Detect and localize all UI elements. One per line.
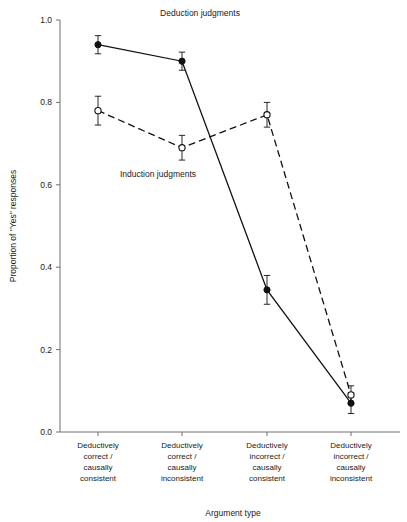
data-point-marker — [264, 287, 270, 293]
y-axis-tick-label: 0.6 — [40, 180, 52, 190]
x-axis-category-line: consistent — [80, 474, 117, 483]
x-axis-category-line: Deductively — [330, 441, 371, 450]
series-line-1 — [98, 45, 351, 403]
x-axis-category-line: causally — [84, 463, 113, 472]
x-axis-category-label: Deductivelycorrect /causallyconsistent — [77, 441, 118, 483]
x-axis-category-label: Deductivelycorrect /causallyinconsistent — [161, 441, 204, 483]
x-axis-category-line: causally — [168, 463, 197, 472]
series-annotations: Deduction judgmentsInduction judgments — [120, 8, 240, 179]
x-axis-category-label: Deductivelyincorrect /causallyinconsiste… — [330, 441, 373, 483]
data-point-marker — [95, 108, 101, 114]
x-axis-category-line: incorrect / — [333, 452, 369, 461]
series-annotation: Deduction judgments — [160, 8, 240, 18]
x-axis-category-line: inconsistent — [161, 474, 204, 483]
y-axis-tick-label: 0.8 — [40, 97, 52, 107]
x-axis-category-line: correct / — [84, 452, 114, 461]
x-axis-category-line: inconsistent — [330, 474, 373, 483]
data-point-marker — [264, 112, 270, 118]
x-axis-category-line: correct / — [168, 452, 198, 461]
x-axis: Deductivelycorrect /causallyconsistentDe… — [60, 432, 400, 483]
data-point-marker — [95, 42, 101, 48]
y-axis-tick-label: 0.0 — [40, 427, 52, 437]
y-axis-tick-label: 1.0 — [40, 15, 52, 25]
data-series-group — [95, 36, 354, 414]
y-axis-tick-label: 0.2 — [40, 345, 52, 355]
x-axis-category-line: Deductively — [161, 441, 202, 450]
chart-figure: 0.00.20.40.60.81.0 Deductivelycorrect /c… — [0, 0, 407, 522]
x-axis-category-label: Deductivelyincorrect /causallyconsistent — [246, 441, 287, 483]
x-axis-category-line: incorrect / — [249, 452, 285, 461]
series-annotation: Induction judgments — [120, 169, 196, 179]
x-axis-category-line: causally — [253, 463, 282, 472]
x-axis-category-line: Deductively — [77, 441, 118, 450]
y-axis: 0.00.20.40.60.81.0 — [40, 15, 60, 437]
x-axis-title: Argument type — [205, 508, 261, 518]
data-point-marker — [179, 58, 185, 64]
data-point-marker — [179, 145, 185, 151]
data-point-marker — [348, 392, 354, 398]
x-axis-category-line: Deductively — [246, 441, 287, 450]
x-axis-category-line: consistent — [249, 474, 286, 483]
proportion-yes-responses-line-chart: 0.00.20.40.60.81.0 Deductivelycorrect /c… — [0, 0, 407, 522]
x-axis-category-line: causally — [337, 463, 366, 472]
y-axis-tick-label: 0.4 — [40, 262, 52, 272]
y-axis-title: Proportion of "Yes" responses — [8, 170, 18, 283]
